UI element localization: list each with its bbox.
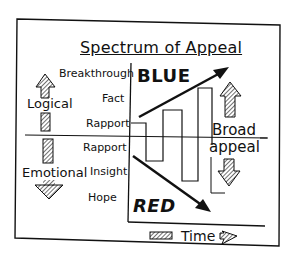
y-label-breakthrough: Breakthrough xyxy=(59,68,134,79)
time-hatch-bar-icon xyxy=(150,232,172,239)
y-label-insight: Insight xyxy=(90,166,127,177)
y-label-hope: Hope xyxy=(88,192,117,203)
y-label-rapport-lower: Rapport xyxy=(83,142,127,153)
x-axis xyxy=(128,222,265,226)
diagram-title: Spectrum of Appeal xyxy=(80,40,242,56)
y-axis xyxy=(128,63,131,222)
broad-label: Broad xyxy=(212,123,256,138)
y-label-rapport-upper: Rapport xyxy=(86,118,130,129)
blue-label: BLUE xyxy=(137,67,190,85)
broad-down-arrow-icon xyxy=(218,159,240,186)
time-arrow-icon xyxy=(220,231,237,244)
blue-arrowhead-icon xyxy=(213,67,229,79)
square-wave xyxy=(131,88,212,181)
appeal-label: appeal xyxy=(209,140,260,155)
red-label: RED xyxy=(133,197,176,215)
y-label-fact: Fact xyxy=(102,93,124,104)
logical-label: Logical xyxy=(27,97,73,110)
time-axis-label: Time xyxy=(181,229,215,243)
broad-up-arrow-icon xyxy=(220,82,241,117)
emotional-label: Emotional xyxy=(22,166,87,179)
